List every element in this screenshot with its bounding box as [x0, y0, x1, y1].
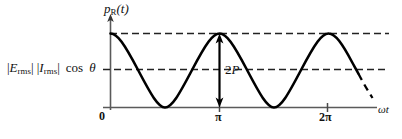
- x-tick-label-2pi: 2π: [319, 111, 332, 123]
- amplitude-annotation-label: 2P: [225, 63, 239, 76]
- x-tick-label-0: 0: [99, 110, 105, 122]
- x-axis-label: ωt: [378, 104, 389, 115]
- power-waveform-figure: pR(t) |Erms||Irms|cosθ ωt 0 π 2π 2P: [0, 0, 402, 139]
- level-label-bar-close-2: |: [57, 60, 60, 75]
- x-axis-label-omega: ω: [378, 103, 386, 115]
- x-tick-label-pi: π: [215, 111, 222, 123]
- level-label-current-subscript: rms: [44, 66, 58, 76]
- level-label-cos: cos: [66, 60, 83, 75]
- level-label-emf-subscript: rms: [18, 66, 32, 76]
- y-axis-label-argument: (t): [117, 1, 129, 16]
- level-label-bar-close-1: |: [31, 60, 34, 75]
- average-power-level-label: |Erms||Irms|cosθ: [7, 61, 96, 76]
- power-curve-dashed-tail: [359, 74, 373, 98]
- level-label-emf-symbol: E: [10, 60, 18, 75]
- amplitude-annotation-symbol: P: [232, 62, 240, 77]
- y-axis-label: pR(t): [104, 2, 129, 17]
- level-label-theta-symbol: θ: [89, 60, 95, 75]
- x-axis-label-time: t: [386, 103, 389, 115]
